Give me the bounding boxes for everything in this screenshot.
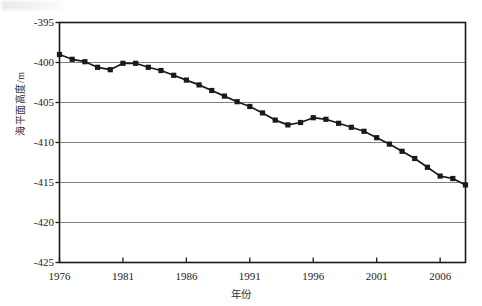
- x-tick-label: 2006: [420, 271, 460, 282]
- gridlines: [60, 63, 466, 223]
- data-point-markers: [57, 52, 468, 188]
- x-tick-label: 1976: [40, 271, 80, 282]
- chart-figure: 海平面高度/m -395-400-405-410-415-420-425 年份 …: [0, 0, 482, 306]
- data-line-series: [60, 55, 466, 185]
- x-tick-label: 2001: [357, 271, 397, 282]
- x-tick-label: 1981: [103, 271, 143, 282]
- chart-svg: [0, 0, 482, 306]
- x-tick-label: 1986: [166, 271, 206, 282]
- x-tick-label: 1996: [293, 271, 333, 282]
- x-tick-label: 1991: [230, 271, 270, 282]
